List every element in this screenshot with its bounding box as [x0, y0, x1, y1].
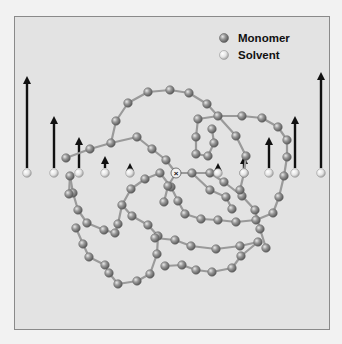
monomer-bead	[185, 89, 194, 98]
monomer-bead	[146, 270, 155, 279]
monomer-bead	[192, 150, 201, 159]
monomer-bead	[65, 190, 74, 199]
flow-arrow	[265, 137, 273, 168]
solvent-bead	[75, 169, 84, 178]
monomer-bead	[222, 193, 231, 202]
monomer-bead	[141, 175, 150, 184]
monomer-bead	[153, 250, 162, 259]
monomer-bead	[256, 225, 265, 234]
monomer-bead	[283, 136, 292, 145]
monomer-bead	[252, 216, 261, 225]
monomer-bead	[269, 209, 278, 218]
monomer-bead	[212, 245, 221, 254]
monomer-bead	[133, 277, 142, 286]
legend-solvent-label: Solvent	[238, 49, 280, 61]
monomer-bead	[162, 156, 171, 165]
monomer-bead	[178, 261, 187, 270]
center-x-icon: ×	[174, 169, 179, 178]
polymer-bonds	[66, 90, 287, 284]
polymer-coil-diagram: × Monomer Solvent	[0, 0, 342, 344]
monomer-bead	[238, 112, 247, 121]
monomer-bead	[74, 206, 83, 215]
monomer-bead	[275, 193, 284, 202]
flow-arrow	[23, 76, 31, 168]
monomer-bead	[208, 268, 217, 277]
monomer-bead	[208, 125, 217, 134]
solvent-bead	[101, 169, 110, 178]
monomer-bead	[228, 264, 237, 273]
monomer-bead	[148, 145, 157, 154]
flow-arrow	[50, 116, 58, 168]
monomer-bead	[114, 220, 123, 229]
solvent-bead	[126, 169, 135, 178]
monomer-bead	[204, 152, 213, 161]
monomer-bead	[114, 280, 123, 289]
monomer-bead	[105, 269, 114, 278]
solvent-bead	[265, 169, 274, 178]
monomer-bead	[228, 205, 237, 214]
monomer-bead	[160, 198, 169, 207]
solvent-bead	[50, 169, 59, 178]
monomer-bead	[214, 216, 223, 225]
monomer-bead	[203, 100, 212, 109]
monomer-bead	[127, 185, 136, 194]
monomer-bead	[107, 139, 116, 148]
monomer-bead	[79, 240, 88, 249]
monomer-bead	[128, 212, 137, 221]
monomer-bead	[112, 117, 121, 126]
flow-arrow	[317, 72, 325, 168]
monomer-bead	[258, 114, 267, 123]
monomer-bead	[62, 154, 71, 163]
monomer-bead	[151, 234, 160, 243]
monomer-bead	[144, 221, 153, 230]
monomer-bead	[236, 242, 245, 251]
monomer-bead	[66, 172, 75, 181]
monomer-bead	[174, 197, 183, 206]
monomer-bead	[85, 253, 94, 262]
monomer-bead	[236, 186, 245, 195]
monomer-bead	[133, 133, 142, 142]
monomer-bead	[100, 226, 109, 235]
monomer-bead	[254, 238, 263, 247]
monomer-bead	[164, 182, 173, 191]
monomer-bead	[194, 115, 203, 124]
monomer-bead	[72, 224, 81, 233]
monomer-bead	[161, 262, 170, 271]
monomer-beads	[62, 86, 292, 289]
solvent-bead	[23, 169, 32, 178]
monomer-bead	[262, 244, 271, 253]
monomer-bead	[242, 152, 251, 161]
monomer-bead	[118, 201, 127, 210]
solvent-bead	[291, 169, 300, 178]
monomer-bead	[111, 229, 120, 238]
monomer-bead	[283, 153, 292, 162]
monomer-bead	[166, 86, 175, 95]
monomer-bead	[86, 145, 95, 154]
monomer-bead	[181, 210, 190, 219]
monomer-bead	[156, 169, 165, 178]
solvent-bead	[317, 169, 326, 178]
monomer-bead	[206, 186, 215, 195]
monomer-bead	[188, 169, 197, 178]
monomer-bead	[124, 99, 133, 108]
solvent-bead	[240, 169, 249, 178]
monomer-bead	[187, 242, 196, 251]
legend-monomer-icon	[220, 34, 229, 43]
legend-solvent-icon	[220, 51, 229, 60]
monomer-bead	[232, 218, 241, 227]
monomer-bead	[210, 139, 219, 148]
legend: Monomer Solvent	[220, 32, 291, 61]
monomer-bead	[237, 252, 246, 261]
monomer-bead	[192, 133, 201, 142]
monomer-bead	[251, 206, 260, 215]
monomer-bead	[171, 236, 180, 245]
monomer-bead	[101, 261, 110, 270]
monomer-bead	[83, 219, 92, 228]
monomer-bead	[232, 132, 241, 141]
legend-monomer-label: Monomer	[238, 32, 290, 44]
monomer-bead	[144, 88, 153, 97]
monomer-bead	[192, 266, 201, 275]
monomer-bead	[206, 169, 215, 178]
center-of-mass-marker: ×	[171, 168, 181, 178]
monomer-bead	[197, 215, 206, 224]
